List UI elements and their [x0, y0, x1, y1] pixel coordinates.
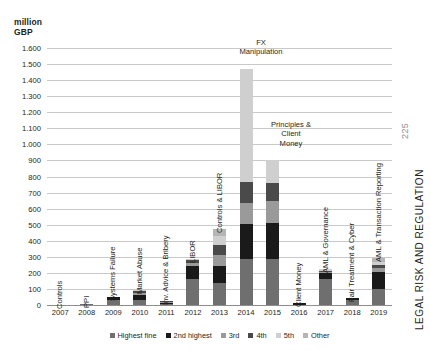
bar-2015	[266, 160, 279, 305]
y-axis-tick-label: 1.500	[7, 60, 41, 69]
bar-annotation: Fair Treatment & Cyber	[348, 223, 356, 302]
bar-segment	[213, 245, 226, 255]
legend-label: 2nd highest	[174, 331, 212, 340]
bar-annotation: Systems Failure	[109, 247, 117, 301]
bar-segment	[240, 69, 253, 182]
bar-2014	[240, 69, 253, 305]
gridline	[47, 112, 392, 113]
bar-2019	[372, 258, 385, 305]
bar-annotation: PPI	[83, 296, 91, 308]
legend-item[interactable]: Other	[303, 331, 329, 340]
gridline	[47, 96, 392, 97]
bar-segment	[372, 289, 385, 305]
bar-segment	[213, 283, 226, 305]
legend-swatch-icon	[276, 333, 281, 338]
y-axis-tick-label: 1.600	[7, 44, 41, 53]
legend-label: Other	[311, 331, 329, 340]
bar-segment	[240, 182, 253, 203]
x-axis-tick-label: 2019	[359, 308, 399, 317]
running-head: LEGAL RISK AND REGULATION	[414, 169, 425, 330]
unit-line-1: million	[14, 17, 42, 27]
bar-segment	[266, 201, 279, 223]
y-axis-tick-label: 300	[7, 253, 41, 262]
legend-label: 3rd	[229, 331, 240, 340]
y-axis-tick-label: 800	[7, 173, 41, 182]
legend-swatch-icon	[110, 333, 115, 338]
legend-swatch-icon	[166, 333, 171, 338]
y-axis-tick-label: 700	[7, 189, 41, 198]
bar-segment	[240, 259, 253, 305]
y-axis-tick-label: 1.100	[7, 124, 41, 133]
y-axis-tick-label: 1.200	[7, 108, 41, 117]
bar-segment	[372, 272, 385, 288]
bar-annotation: AML & Governance	[322, 207, 330, 273]
axis-unit-caption: millionGBP	[14, 18, 42, 37]
legend-label: 5th	[284, 331, 294, 340]
legend-label: Highest fine	[118, 331, 157, 340]
gridline	[47, 160, 392, 161]
bar-segment	[133, 300, 146, 305]
y-axis-tick-label: 1.400	[7, 76, 41, 85]
fines-bar-chart: millionGBP 1.6001.5001.4001.3001.2001.10…	[0, 0, 430, 351]
legend-item[interactable]: 2nd highest	[166, 331, 212, 340]
plot-area: 1.6001.5001.4001.3001.2001.1001.00090080…	[47, 48, 392, 305]
bar-segment	[319, 279, 332, 305]
chart-legend: Highest fine2nd highest3rd4th5thOther	[47, 331, 392, 340]
bar-segment	[266, 259, 279, 305]
gridline	[47, 144, 392, 145]
bar-2012	[186, 259, 199, 305]
bar-segment	[266, 160, 279, 182]
legend-swatch-icon	[248, 333, 253, 338]
legend-item[interactable]: 3rd	[221, 331, 240, 340]
bar-segment	[213, 266, 226, 283]
y-axis-tick-label: 1.000	[7, 140, 41, 149]
bar-annotation: LIBOR	[189, 240, 197, 263]
y-axis-tick-label: 1.300	[7, 92, 41, 101]
y-axis-tick-label: 200	[7, 269, 41, 278]
y-axis-tick-label: 900	[7, 156, 41, 165]
legend-swatch-icon	[221, 333, 226, 338]
bar-segment	[186, 266, 199, 279]
y-axis-tick-label: 100	[7, 285, 41, 294]
y-axis-tick-label: 500	[7, 221, 41, 230]
bar-annotation: AML & Transaction Reporting	[375, 163, 383, 262]
gridline	[47, 80, 392, 81]
bar-segment	[266, 223, 279, 259]
page-folio: 225	[400, 123, 410, 139]
legend-item[interactable]: 5th	[276, 331, 294, 340]
bar-2013	[213, 229, 226, 305]
callout-fx-manipulation: FX Manipulation	[218, 38, 304, 57]
gridline	[47, 128, 392, 129]
bar-segment	[213, 255, 226, 266]
gridline	[47, 64, 392, 65]
gridline	[47, 305, 392, 306]
legend-swatch-icon	[303, 333, 308, 338]
callout-principles-client-money: Principles & Client Money	[256, 120, 326, 148]
bar-segment	[186, 279, 199, 305]
bar-segment	[213, 236, 226, 245]
bar-2017	[319, 269, 332, 305]
bar-segment	[240, 224, 253, 260]
y-axis-tick-label: 0	[7, 301, 41, 310]
unit-line-2: GBP	[14, 27, 33, 37]
y-axis-tick-label: 600	[7, 205, 41, 214]
legend-item[interactable]: 4th	[248, 331, 266, 340]
legend-label: 4th	[256, 331, 266, 340]
legend-item[interactable]: Highest fine	[110, 331, 157, 340]
bar-annotation: Controls & LIBOR	[216, 173, 224, 233]
bar-annotation: Client Money	[295, 263, 303, 307]
bar-segment	[240, 203, 253, 224]
bar-annotation: Controls	[56, 281, 64, 309]
y-axis-tick-label: 400	[7, 237, 41, 246]
bar-segment	[266, 183, 279, 202]
bar-annotation: Inv. Advice & Bribery	[162, 235, 170, 305]
bar-annotation: Market Abuse	[136, 248, 144, 294]
